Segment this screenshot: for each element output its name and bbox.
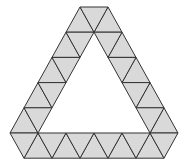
- triangle-frame-diagram: [0, 0, 190, 167]
- triangle-frame-svg: [0, 0, 190, 167]
